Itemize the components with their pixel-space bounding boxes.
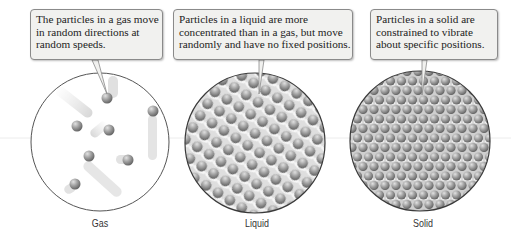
gas-panel <box>31 60 169 211</box>
solid-callout-line-2: constrained to vibrate <box>376 26 492 39</box>
solid-panel <box>350 60 490 211</box>
solid-container-circle <box>350 71 490 211</box>
solid-label: Solid <box>398 217 449 229</box>
solid-callout-line-3: about specific positions. <box>376 38 492 51</box>
gas-callout-line-1: The particles in a gas move <box>36 13 157 26</box>
gas-callout-line-3: random speeds. <box>36 38 157 51</box>
solid-callout: Particles in a solid are constrained to … <box>370 9 498 60</box>
states-of-matter-diagram: The particles in a gas move in random di… <box>0 0 511 241</box>
liquid-callout-line-3: randomly and have no fixed positions. <box>179 38 347 51</box>
liquid-label: Liquid <box>232 217 283 229</box>
liquid-container-circle <box>185 73 325 213</box>
liquid-panel <box>185 60 325 213</box>
solid-callout-line-1: Particles in a solid are <box>376 13 492 26</box>
liquid-callout-line-1: Particles in a liquid are more <box>179 13 347 26</box>
liquid-callout: Particles in a liquid are more concentra… <box>173 9 353 60</box>
liquid-callout-line-2: concentrated than in a gas, but move <box>179 26 347 39</box>
gas-label: Gas <box>75 217 126 229</box>
gas-callout: The particles in a gas move in random di… <box>30 9 163 60</box>
gas-callout-line-2: in random directions at <box>36 26 157 39</box>
